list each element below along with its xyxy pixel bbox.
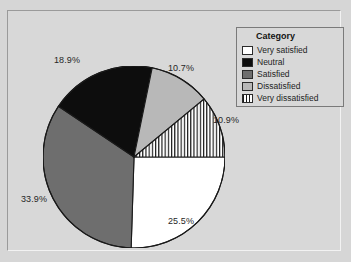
- legend-item-very-dissatisfied[interactable]: Very dissatisfied: [242, 92, 339, 104]
- pie-svg: [43, 66, 225, 248]
- black-swatch-icon: [242, 58, 253, 67]
- striped-swatch-icon: [242, 94, 253, 103]
- legend: Category Very satisfied Neutral Satisfie…: [236, 27, 344, 107]
- pie-chart-screenshot: 18.9% 10.7% 10.9% 33.9% 25.5% Category V…: [0, 0, 351, 262]
- legend-label-very-dissatisfied: Very dissatisfied: [257, 93, 318, 103]
- legend-label-very-satisfied: Very satisfied: [257, 45, 308, 55]
- dark-gray-swatch-icon: [242, 70, 253, 79]
- legend-label-dissatisfied: Dissatisfied: [257, 81, 300, 91]
- legend-label-satisfied: Satisfied: [257, 69, 290, 79]
- pie-label-dissatisfied: 10.7%: [168, 63, 194, 73]
- legend-item-very-satisfied[interactable]: Very satisfied: [242, 44, 339, 56]
- pie-slice-very-satisfied[interactable]: [131, 157, 225, 248]
- legend-item-dissatisfied[interactable]: Dissatisfied: [242, 80, 339, 92]
- pie-label-satisfied: 33.9%: [21, 194, 47, 204]
- legend-label-neutral: Neutral: [257, 57, 284, 67]
- light-gray-swatch-icon: [242, 82, 253, 91]
- pie-label-very-dissatisfied: 10.9%: [213, 115, 239, 125]
- legend-item-neutral[interactable]: Neutral: [242, 56, 339, 68]
- legend-item-satisfied[interactable]: Satisfied: [242, 68, 339, 80]
- white-swatch-icon: [242, 46, 253, 55]
- pie-label-neutral: 18.9%: [54, 55, 80, 65]
- legend-title: Category: [256, 31, 339, 42]
- chart-frame: 18.9% 10.7% 10.9% 33.9% 25.5% Category V…: [7, 10, 341, 251]
- pie-chart: [43, 66, 225, 248]
- pie-label-very-satisfied: 25.5%: [168, 216, 194, 226]
